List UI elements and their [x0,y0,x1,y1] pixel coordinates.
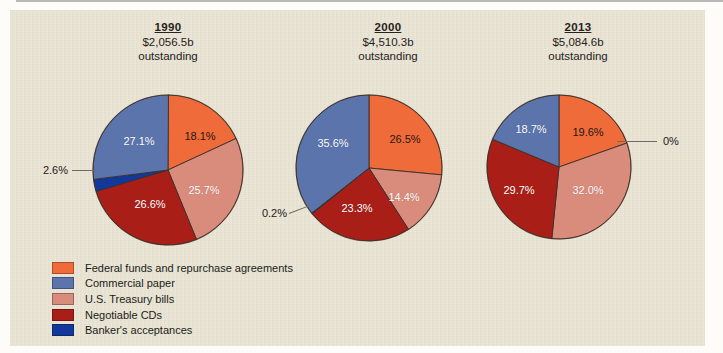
figure-stage: 1990 $2,056.5b outstanding 18.1% 27.1% 2… [0,0,723,353]
slice-label-1990-cd: 26.6% [134,198,165,210]
legend-swatch-commercial-paper [52,277,74,289]
slice-label-2013-tb: 32.0% [572,184,603,196]
chart-amount-note-1990: outstanding [88,49,248,64]
legend-swatch-federal-funds [52,262,74,274]
chart-amount-2013: $5,084.6b [498,35,658,50]
chart-header-1990: 1990 $2,056.5b outstanding [88,20,248,64]
legend-swatch-negotiable-cds [52,309,74,321]
legend-label-treasury-bills: U.S. Treasury bills [85,293,174,305]
pie-slices-1990 [93,95,243,245]
pie-chart-2013 [484,92,634,242]
legend-swatch-treasury-bills [52,293,74,305]
legend-swatch-bankers-acceptances [52,324,74,336]
legend-label-negotiable-cds: Negotiable CDs [85,309,162,321]
chart-amount-2000: $4,510.3b [308,35,468,50]
legend-label-bankers-acceptances: Banker's acceptances [85,324,192,336]
chart-year-2013: 2013 [498,20,658,35]
legend-item: Banker's acceptances [52,322,293,338]
slice-label-2013-cd: 29.7% [503,184,534,196]
legend-item: U.S. Treasury bills [52,291,293,307]
callout-2000-ba: 0.2% [262,207,287,219]
leader-line-1990 [72,170,96,171]
leader-line-2013 [617,141,657,142]
chart-year-2000: 2000 [308,20,468,35]
chart-header-2000: 2000 $4,510.3b outstanding [308,20,468,64]
chart-year-1990: 1990 [88,20,248,35]
legend-label-commercial-paper: Commercial paper [85,277,175,289]
legend-item: Negotiable CDs [52,307,293,323]
pie-chart-1990 [90,92,246,248]
slice-label-2013-ff: 19.6% [572,126,603,138]
pie-chart-2000 [293,92,445,244]
pie-slices-2013 [487,95,631,239]
slice-label-1990-tb: 25.7% [188,184,219,196]
chart-amount-1990: $2,056.5b [88,35,248,50]
slice-label-1990-ff: 18.1% [184,130,215,142]
pie-svg-1990 [90,92,246,248]
slice-label-2000-ff: 26.5% [389,133,420,145]
pie-svg-2013 [484,92,634,242]
legend: Federal funds and repurchase agreements … [52,260,293,338]
callout-1990-ba: 2.6% [43,164,68,176]
legend-item: Commercial paper [52,276,293,292]
chart-amount-note-2013: outstanding [498,49,658,64]
callout-2013-ba: 0% [663,135,679,147]
slice-label-2000-cp: 35.6% [317,137,348,149]
slice-label-2000-cd: 23.3% [341,202,372,214]
pie-slices-2000 [296,95,442,241]
slice-label-2000-tb: 14.4% [388,191,419,203]
chart-header-2013: 2013 $5,084.6b outstanding [498,20,658,64]
legend-item: Federal funds and repurchase agreements [52,260,293,276]
slice-label-1990-cp: 27.1% [123,135,154,147]
slice-label-2013-cp: 18.7% [515,123,546,135]
legend-label-federal-funds: Federal funds and repurchase agreements [85,262,293,274]
pie-svg-2000 [293,92,445,244]
chart-amount-note-2000: outstanding [308,49,468,64]
